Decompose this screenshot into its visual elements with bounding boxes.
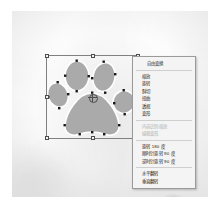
menu-item-warp[interactable]: 变形 xyxy=(133,110,195,118)
transform-context-menu[interactable]: 自由变换 缩放 旋转 斜切 扭曲 透视 变形 内容识别缩放 编辑变形 旋转 18… xyxy=(132,56,196,189)
handle-bottom-left[interactable] xyxy=(45,136,49,140)
transform-pivot-point[interactable] xyxy=(89,94,98,103)
menu-item-flip-vertical[interactable]: 垂直翻转 xyxy=(133,178,195,186)
menu-separator xyxy=(136,167,192,168)
menu-item-rotate[interactable]: 旋转 xyxy=(133,80,195,88)
menu-item-distort[interactable]: 扭曲 xyxy=(133,95,195,103)
handle-top-center[interactable] xyxy=(91,54,95,58)
menu-separator xyxy=(136,70,192,71)
menu-item-perspective[interactable]: 透视 xyxy=(133,103,195,111)
menu-item-flip-horizontal[interactable]: 水平翻转 xyxy=(133,170,195,178)
handle-middle-left[interactable] xyxy=(45,95,49,99)
transform-selection-box[interactable] xyxy=(46,55,139,139)
menu-item-scale[interactable]: 缩放 xyxy=(133,73,195,81)
menu-separator xyxy=(136,120,192,121)
handle-top-left[interactable] xyxy=(45,54,49,58)
photo-artifact xyxy=(162,193,184,197)
menu-item-rotate-cw-90[interactable]: 顺时针旋转 90 度 xyxy=(133,150,195,158)
handle-bottom-center[interactable] xyxy=(91,136,95,140)
menu-item-free-transform[interactable]: 自由变换 xyxy=(133,60,195,68)
menu-item-rotate-180[interactable]: 旋转 180 度 xyxy=(133,143,195,151)
screenshot-root: 自由变换 缩放 旋转 斜切 扭曲 透视 变形 内容识别缩放 编辑变形 旋转 18… xyxy=(0,0,219,214)
menu-item-edit-warp: 编辑变形 xyxy=(133,130,195,138)
menu-separator xyxy=(136,140,192,141)
menu-item-content-aware-scale: 内容识别缩放 xyxy=(133,123,195,131)
menu-item-skew[interactable]: 斜切 xyxy=(133,88,195,96)
menu-item-rotate-ccw-90[interactable]: 逆时针旋转 90 度 xyxy=(133,158,195,166)
